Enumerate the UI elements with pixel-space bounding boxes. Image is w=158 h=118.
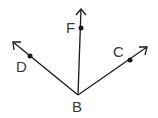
point-d — [28, 54, 33, 59]
label-f: F — [66, 19, 75, 36]
label-c: C — [113, 43, 124, 60]
ray-bf — [76, 9, 86, 95]
label-d: D — [16, 58, 27, 75]
point-c — [128, 58, 133, 63]
label-b: B — [72, 98, 82, 115]
point-f — [79, 26, 84, 31]
ray-diagram: B D F C — [0, 0, 158, 118]
